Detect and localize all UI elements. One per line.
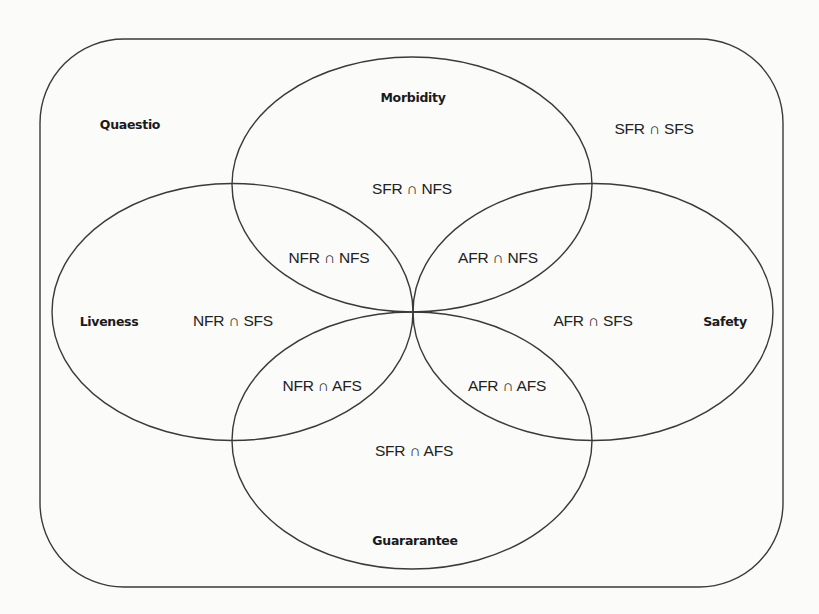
set-guarantee-ellipse xyxy=(232,312,592,569)
set-label-liveness: Liveness xyxy=(80,316,139,329)
region-right-only-label: AFR ∩ SFS xyxy=(553,313,632,329)
universe-label: Quaestio xyxy=(100,119,160,132)
region-bottom-only-label: SFR ∩ AFS xyxy=(375,443,453,459)
region-top-right-label: AFR ∩ NFS xyxy=(458,250,538,266)
set-label-morbidity: Morbidity xyxy=(380,92,445,105)
region-bottom-left-label: NFR ∩ AFS xyxy=(282,378,361,394)
set-label-safety: Safety xyxy=(703,316,747,329)
region-top-only-label: SFR ∩ NFS xyxy=(372,181,452,197)
set-label-guarantee: Guararantee xyxy=(372,535,457,548)
region-outside-label: SFR ∩ SFS xyxy=(614,121,693,137)
region-top-left-label: NFR ∩ NFS xyxy=(289,250,370,266)
region-bottom-right-label: AFR ∩ AFS xyxy=(468,378,546,394)
region-left-only-label: NFR ∩ SFS xyxy=(193,313,273,329)
